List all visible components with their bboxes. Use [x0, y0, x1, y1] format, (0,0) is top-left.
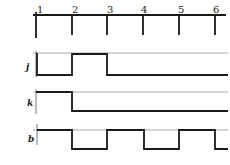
- signal-label-j: j: [24, 62, 30, 72]
- tick-label-5: 5: [178, 4, 184, 15]
- signal-j: j: [24, 51, 228, 77]
- tick-label-6: 6: [213, 4, 219, 15]
- tick-label-2: 2: [72, 4, 78, 15]
- signal-label-b: b: [28, 134, 34, 144]
- signal-b: b: [28, 124, 228, 149]
- timing-diagram: 1 2 3 4 5 6 j k b: [0, 0, 230, 165]
- signal-label-k: k: [27, 98, 33, 108]
- clock-axis: 1 2 3 4 5 6: [33, 4, 226, 38]
- tick-label-3: 3: [107, 4, 113, 15]
- tick-label-4: 4: [141, 4, 147, 15]
- tick-label-1: 1: [37, 4, 43, 15]
- signal-k: k: [27, 89, 228, 114]
